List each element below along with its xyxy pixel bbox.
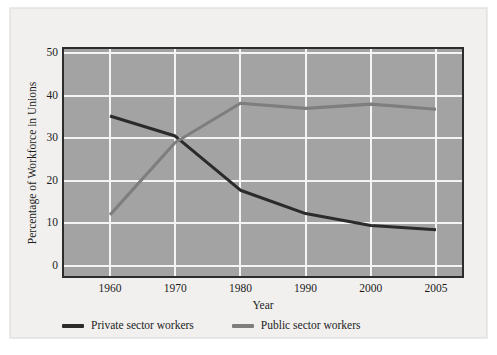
legend-label: Private sector workers xyxy=(91,320,194,332)
line-swatch-dark xyxy=(62,324,84,328)
x-tick-label: 2005 xyxy=(425,283,448,295)
x-tick-label: 1970 xyxy=(164,283,187,295)
series-lines xyxy=(64,49,462,276)
x-tick-label: 2000 xyxy=(359,283,382,295)
y-tick-label: 0 xyxy=(52,260,58,272)
x-tick-label: 1960 xyxy=(99,283,122,295)
chart-legend: Private sector workersPublic sector work… xyxy=(62,320,464,332)
chart-page: Percentage of Workforce in Unions 010203… xyxy=(0,0,497,355)
line-swatch-gray xyxy=(232,324,254,328)
y-tick-label: 40 xyxy=(47,90,59,102)
y-tick-label: 50 xyxy=(47,47,59,59)
y-axis-title-text: Percentage of Workforce in Unions xyxy=(26,81,38,243)
plot-inner: 01020304050 196019701980199020002005 xyxy=(64,49,462,276)
series-line xyxy=(110,116,436,230)
y-tick-label: 30 xyxy=(47,132,59,144)
legend-item: Private sector workers xyxy=(62,320,194,332)
plot-area: 01020304050 196019701980199020002005 xyxy=(62,47,464,278)
y-axis-title: Percentage of Workforce in Unions xyxy=(24,47,40,278)
x-tick-label: 1990 xyxy=(294,283,317,295)
legend-item: Public sector workers xyxy=(232,320,361,332)
y-tick-label: 10 xyxy=(47,218,59,230)
x-tick-label: 1980 xyxy=(229,283,252,295)
x-axis-title: Year xyxy=(62,299,464,311)
y-tick-label: 20 xyxy=(47,175,59,187)
legend-label: Public sector workers xyxy=(261,320,361,332)
series-line xyxy=(110,103,436,215)
